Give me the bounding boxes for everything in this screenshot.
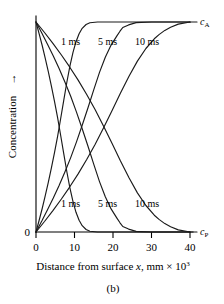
label-c-p-subscript: P [204,231,208,239]
x-tick-label-0: 0 [33,241,39,253]
endpoint-leaders-group [190,22,197,232]
x-axis-title-exponent: 3 [186,260,190,268]
label-c-a-subscript: A [204,21,209,29]
figure-caption: (b) [107,282,120,295]
figure-container: cA cP 1 ms 5 ms 10 ms 1 ms 5 ms 10 ms 0 … [0,0,224,304]
annotation-rising-10ms: 10 ms [135,36,159,47]
x-axis-title: Distance from surface x, mm × 103 [36,260,190,272]
x-axis-title-after: , mm × 10 [141,260,187,272]
label-c-a: cA [200,16,210,29]
x-tick-label-30: 30 [146,241,158,253]
annotation-rising-5ms: 5 ms [98,36,117,47]
annotation-falling-1ms: 1 ms [61,198,80,209]
y-axis-title-group: Concentration → [6,74,18,159]
concentration-profile-chart: cA cP 1 ms 5 ms 10 ms 1 ms 5 ms 10 ms 0 … [0,0,224,304]
x-tick-label-10: 10 [69,241,81,253]
x-axis-title-before: Distance from surface [36,260,136,272]
y-axis-title-arrow: → [6,74,18,85]
x-tick-label-40: 40 [185,241,197,253]
x-tick-label-20: 20 [108,241,120,253]
annotation-falling-10ms: 10 ms [135,198,159,209]
label-c-p: cP [200,226,208,239]
annotation-rising-1ms: 1 ms [61,36,80,47]
annotation-falling-5ms: 5 ms [98,198,117,209]
y-axis-title: Concentration [6,95,18,158]
y-tick-label-0: 0 [25,226,31,238]
